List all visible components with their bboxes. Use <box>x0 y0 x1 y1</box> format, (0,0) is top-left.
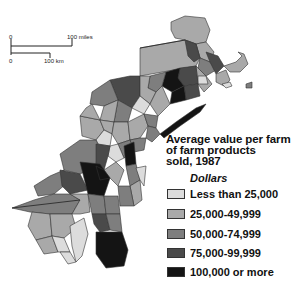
legend-swatch <box>167 189 185 199</box>
legend-item: 25,000-49,999 <box>167 208 261 219</box>
legend-label: 75,000-99,999 <box>190 247 261 259</box>
legend-item: Less than 25,000 <box>167 188 278 199</box>
legend-label: 25,000-49,999 <box>190 208 261 220</box>
legend-item: 50,000-74,999 <box>167 228 261 239</box>
legend-label: 100,000 or more <box>190 266 274 278</box>
cape-cod <box>224 52 248 72</box>
delmarva-south <box>96 232 128 268</box>
legend-title-line: sold, 1987 <box>166 156 296 167</box>
scale-km-label: 100 km <box>44 58 64 64</box>
legend-swatch <box>167 209 185 219</box>
legend-item: 75,000-99,999 <box>167 247 261 258</box>
legend-swatch <box>167 229 185 239</box>
legend-units: Dollars <box>190 172 227 184</box>
legend-swatch <box>167 248 185 258</box>
scale-miles-zero: 0 <box>9 34 12 40</box>
scale-miles-label: 100 miles <box>67 34 93 40</box>
legend-swatch <box>167 267 185 277</box>
legend-label: 50,000-74,999 <box>190 228 261 240</box>
legend-title: Average value per farm of farm products … <box>166 134 296 167</box>
region-vt-nh <box>171 16 210 44</box>
legend-label: Less than 25,000 <box>190 188 278 200</box>
legend-item: 100,000 or more <box>167 266 274 277</box>
scale-km-zero: 0 <box>9 58 12 64</box>
